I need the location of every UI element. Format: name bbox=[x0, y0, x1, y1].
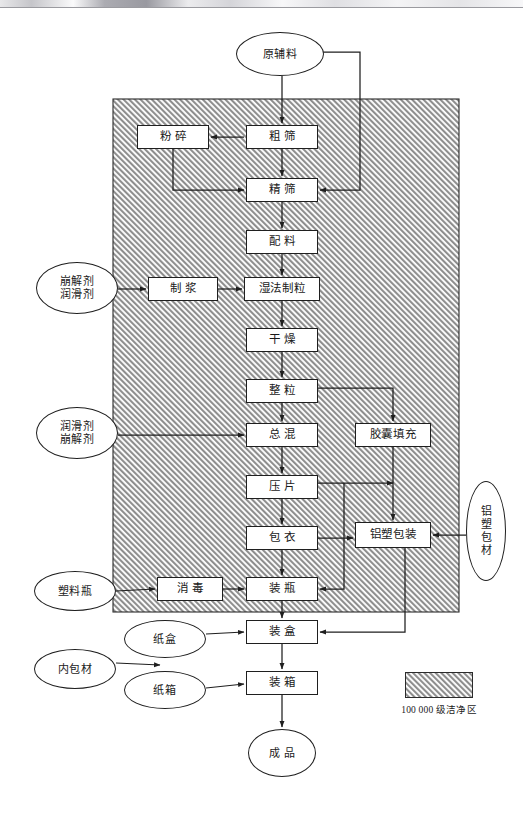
node-finished-product[interactable]: 成 品 bbox=[248, 729, 316, 777]
edge-paperbox-to-boxing bbox=[206, 632, 244, 634]
node-alu-plastic-packaging[interactable]: 铝塑包装 bbox=[355, 522, 431, 548]
node-bottling[interactable]: 装 瓶 bbox=[246, 577, 318, 601]
node-paper-box[interactable]: 纸盒 bbox=[124, 620, 206, 658]
node-total-mixing[interactable]: 总 混 bbox=[246, 423, 318, 447]
node-raw-material[interactable]: 原辅料 bbox=[236, 32, 324, 76]
node-tableting[interactable]: 压 片 bbox=[246, 475, 318, 499]
node-crushing[interactable]: 粉 碎 bbox=[137, 125, 209, 149]
node-wet-granulation[interactable]: 湿法制粒 bbox=[244, 277, 320, 301]
node-paper-carton[interactable]: 纸箱 bbox=[124, 671, 206, 709]
node-sterilizing[interactable]: 消 毒 bbox=[157, 577, 223, 601]
node-drying[interactable]: 干 燥 bbox=[246, 328, 318, 352]
node-batching[interactable]: 配 料 bbox=[246, 230, 318, 254]
node-cartoning[interactable]: 装 箱 bbox=[246, 671, 318, 695]
node-fine-sieving[interactable]: 精 筛 bbox=[246, 178, 318, 202]
figure-page: 原辅料 粉 碎 粗 筛 精 筛 配 料 崩解剂 润滑剂 制 浆 湿法制粒 干 燥… bbox=[0, 0, 523, 815]
node-coating[interactable]: 包 衣 bbox=[246, 526, 318, 550]
legend-label: 100 000 级洁净区 bbox=[393, 702, 485, 716]
node-pulping[interactable]: 制 浆 bbox=[148, 277, 218, 301]
node-coarse-sieving[interactable]: 粗 筛 bbox=[246, 125, 318, 149]
node-plastic-bottle[interactable]: 塑料瓶 bbox=[34, 571, 116, 611]
node-capsule-filling[interactable]: 胶囊填充 bbox=[355, 423, 431, 447]
node-lubricant-disintegrant-2[interactable]: 润滑剂 崩解剂 bbox=[36, 407, 118, 459]
node-sizing[interactable]: 整 粒 bbox=[246, 379, 318, 403]
node-boxing[interactable]: 装 盒 bbox=[246, 620, 318, 644]
node-alu-plastic-material[interactable]: 铝塑包材 bbox=[466, 481, 506, 581]
edge-innerpack-to-junction bbox=[116, 663, 160, 665]
legend-hatch-swatch bbox=[405, 672, 473, 698]
node-disintegrant-lubricant-1[interactable]: 崩解剂 润滑剂 bbox=[36, 262, 118, 314]
node-inner-packing-material[interactable]: 内包材 bbox=[34, 649, 116, 689]
edge-carton-to-cartoning bbox=[206, 684, 244, 688]
